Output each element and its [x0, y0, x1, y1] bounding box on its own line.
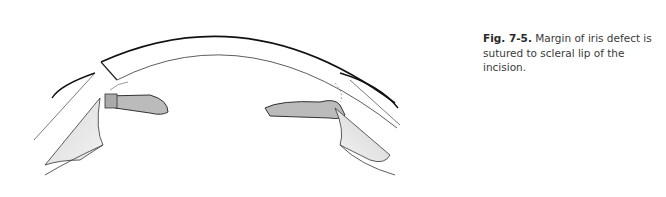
cornea-outer	[101, 36, 395, 103]
cornea-inner	[117, 55, 397, 128]
figure-label: Fig. 7-5.	[483, 32, 532, 44]
illustration	[0, 0, 500, 197]
right-iris	[265, 101, 345, 119]
figure-caption: Fig. 7-5. Margin of iris defect is sutur…	[483, 31, 663, 75]
